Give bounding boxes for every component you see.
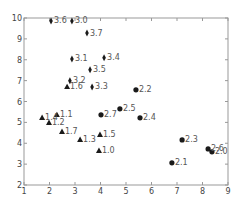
y-tick-label: 9 [17,35,22,44]
scatter-chart: 123456789 2345678910 1.01.11.21.31.41.51… [0,0,242,203]
point-label: 3.3 [95,82,108,91]
y-axis: 2345678910 [12,14,228,190]
point-label: 2.4 [143,113,156,122]
x-tick-label: 9 [225,187,230,196]
y-tick-label: 6 [17,98,22,107]
point-label: 3.2 [73,76,86,85]
point-label: 3.7 [90,29,103,38]
point-label: 1.4 [45,113,58,122]
plot-frame [24,18,228,185]
circle-marker [206,146,211,151]
point-label: 2.6 [211,144,224,153]
y-tick-label: 2 [17,181,22,190]
data-points: 1.01.11.21.31.41.51.61.72.02.12.22.32.42… [39,16,228,167]
point-label: 1.0 [102,146,115,155]
point-label: 2.1 [175,158,188,167]
point-label: 3.4 [107,53,120,62]
point-label: 1.3 [83,135,96,144]
point-label: 2.2 [139,85,152,94]
y-tick-label: 5 [17,118,22,127]
x-tick-label: 1 [21,187,26,196]
y-tick-label: 8 [17,56,22,65]
x-tick-label: 4 [98,187,103,196]
point-label: 3.5 [93,65,106,74]
point-label: 3.1 [75,54,88,63]
circle-marker [133,87,138,92]
x-tick-label: 5 [123,187,128,196]
circle-marker [180,137,185,142]
circle-marker [169,160,174,165]
series-group-2: 2.02.12.22.32.42.52.62.7 [98,85,227,167]
circle-marker [98,112,103,117]
point-label: 2.5 [123,104,136,113]
point-label: 3.6 [54,16,67,25]
diamond-marker [88,66,92,73]
diamond-marker [70,55,74,62]
x-tick-label: 6 [149,187,154,196]
diamond-marker [85,30,89,37]
diamond-marker [90,83,94,90]
series-group-3: 3.03.13.23.33.43.53.63.7 [49,16,120,91]
point-label: 2.3 [185,135,198,144]
y-tick-label: 7 [17,77,22,86]
circle-marker [137,115,142,120]
y-tick-label: 4 [17,139,22,148]
point-label: 1.5 [103,130,116,139]
x-tick-label: 7 [174,187,179,196]
circle-marker [117,106,122,111]
point-label: 3.0 [75,16,88,25]
y-tick-label: 10 [12,14,22,23]
x-tick-label: 2 [47,187,52,196]
x-tick-label: 3 [72,187,77,196]
diamond-marker [102,54,106,61]
point-label: 1.7 [65,127,78,136]
point-label: 2.7 [104,110,117,119]
y-tick-label: 3 [17,160,22,169]
x-tick-label: 8 [200,187,205,196]
